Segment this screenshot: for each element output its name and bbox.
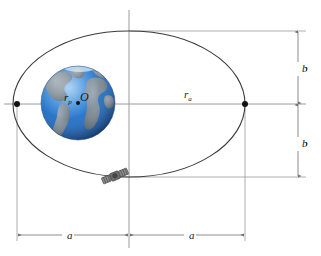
apogee-vertex-dot: [242, 101, 248, 107]
label-semi-major-right-top: a: [189, 229, 195, 241]
label-semi-major-left-top: a: [67, 229, 73, 241]
label-semi-minor-top-top: b: [302, 62, 308, 74]
extension-lines: [17, 31, 306, 241]
label-center-point: O: [80, 90, 89, 104]
orbit-figure: rp O ra b b a a a a b b: [0, 0, 321, 256]
perigee-vertex-dot: [14, 101, 20, 107]
principal-axes: [4, 10, 306, 248]
orbit-diagram-canvas: rp O ra b b a a a a b b: [0, 0, 321, 256]
label-semi-minor-bottom-top: b: [302, 137, 308, 149]
label-apogee-radius: ra: [184, 88, 192, 103]
